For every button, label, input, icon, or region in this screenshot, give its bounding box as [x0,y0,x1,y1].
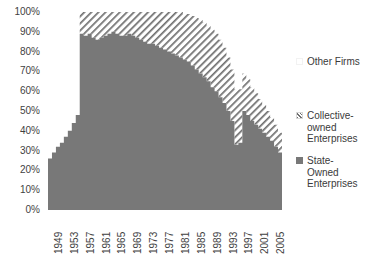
filled-square-icon [296,157,303,164]
blank-square-icon [296,58,303,65]
x-axis-tick-label: 1961 [102,232,112,254]
legend-label-state-owned: State- Owned Enterprises [307,155,358,190]
x-axis-tick-label: 1977 [165,232,175,254]
x-axis-tick-label: 1993 [229,232,239,254]
x-axis-tick-label: 1949 [54,232,64,254]
y-axis-tick-label: 40% [20,126,40,136]
y-axis-tick-label: 100% [14,7,40,17]
legend-label-other-firms: Other Firms [307,56,360,68]
x-axis-tick-label: 1981 [181,232,191,254]
x-axis: 1949195319571961196519691973197719811985… [48,212,282,258]
legend-item-collective-owned[interactable]: Collective- owned Enterprises [296,110,358,145]
y-axis-tick-label: 60% [20,86,40,96]
plot-area [48,12,282,210]
legend-item-other-firms[interactable]: Other Firms [296,56,360,68]
y-axis-tick-label: 0% [26,205,40,215]
hatched-square-icon [296,112,303,119]
x-axis-tick-label: 2005 [276,232,286,254]
y-axis-tick-label: 80% [20,47,40,57]
legend-item-state-owned[interactable]: State- Owned Enterprises [296,155,358,190]
stacked-area-svg [48,12,282,210]
chart-container: 0%10%20%30%40%50%60%70%80%90%100% 194919… [0,0,386,259]
x-axis-tick-label: 1973 [149,232,159,254]
x-axis-tick-label: 1985 [197,232,207,254]
x-axis-tick-label: 1965 [117,232,127,254]
y-axis-tick-label: 90% [20,27,40,37]
x-axis-tick-label: 2001 [260,232,270,254]
x-axis-tick-label: 1953 [70,232,80,254]
y-axis-tick-label: 30% [20,146,40,156]
y-axis-tick-label: 50% [20,106,40,116]
y-axis-tick-label: 70% [20,66,40,76]
legend-label-collective-owned: Collective- owned Enterprises [307,110,358,145]
y-axis-tick-label: 10% [20,185,40,195]
x-axis-tick-label: 1957 [86,232,96,254]
x-axis-tick-label: 1989 [213,232,223,254]
x-axis-tick-label: 1969 [133,232,143,254]
y-axis: 0%10%20%30%40%50%60%70%80%90%100% [0,12,44,210]
x-axis-tick-label: 1997 [244,232,254,254]
y-axis-tick-label: 20% [20,165,40,175]
